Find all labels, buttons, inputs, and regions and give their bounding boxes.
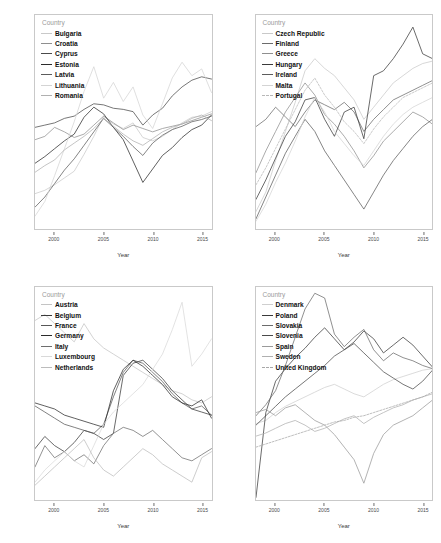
- series-line-denmark: [256, 368, 433, 423]
- x-tick-label: 2000: [269, 237, 280, 242]
- legend-item-austria[interactable]: Austria: [41, 300, 95, 310]
- legend-label: Lithuania: [55, 82, 84, 89]
- chart-panel-4: 12.515.017.520.022.525.0 % Country Denma…: [221, 272, 441, 543]
- plot-area-3: 141618 % Country AustriaBelgiumFranceGer…: [34, 286, 213, 502]
- chart-panel-2: 1719212325 % Country Czech RepublicFinla…: [221, 0, 441, 272]
- legend-swatch-icon: [41, 85, 52, 86]
- legend-item-spain[interactable]: Spain: [262, 341, 327, 351]
- legend-item-italy[interactable]: Italy: [41, 341, 95, 351]
- legend-swatch-icon: [41, 33, 52, 34]
- legend-label: Slovenia: [276, 332, 303, 339]
- legend-item-germany[interactable]: Germany: [41, 331, 95, 341]
- legend-swatch-icon: [41, 367, 52, 368]
- legend-item-czech-republic[interactable]: Czech Republic: [262, 28, 325, 38]
- legend-2[interactable]: Country Czech RepublicFinlandGreeceHunga…: [262, 19, 325, 101]
- legend-label: Austria: [55, 301, 78, 308]
- legend-item-malta[interactable]: Malta: [262, 80, 325, 90]
- legend-item-hungary[interactable]: Hungary: [262, 59, 325, 69]
- legend-label: Cyprus: [55, 50, 78, 57]
- legend-label: Denmark: [276, 301, 304, 308]
- legend-items-1: BulgariaCroatiaCyprusEstoniaLatviaLithua…: [41, 28, 84, 101]
- x-tick-label: 2015: [418, 237, 429, 242]
- legend-item-denmark[interactable]: Denmark: [262, 300, 327, 310]
- x-axis-label-3: Year: [34, 523, 213, 529]
- legend-items-2: Czech RepublicFinlandGreeceHungaryIrelan…: [262, 28, 325, 101]
- legend-label: Estonia: [55, 61, 79, 68]
- legend-item-romania[interactable]: Romania: [41, 90, 84, 100]
- figure-panel-grid: 20253035 % Country BulgariaCroatiaCyprus…: [0, 0, 441, 543]
- legend-label: Spain: [276, 343, 294, 350]
- legend-label: Netherlands: [55, 364, 93, 371]
- legend-item-belgium[interactable]: Belgium: [41, 310, 95, 320]
- x-tick-label: 2005: [98, 508, 109, 513]
- x-tick-label: 2015: [418, 508, 429, 513]
- legend-item-slovenia[interactable]: Slovenia: [262, 331, 327, 341]
- legend-label: Malta: [276, 82, 293, 89]
- x-tick-label: 2010: [368, 508, 379, 513]
- legend-1[interactable]: Country BulgariaCroatiaCyprusEstoniaLatv…: [41, 19, 84, 101]
- legend-title-4: Country: [263, 291, 327, 298]
- legend-swatch-icon: [41, 356, 52, 357]
- legend-item-portugal[interactable]: Portugal: [262, 90, 325, 100]
- x-tick-label: 2000: [48, 237, 59, 242]
- x-tick-label: 2000: [48, 508, 59, 513]
- legend-item-croatia[interactable]: Croatia: [41, 38, 84, 48]
- legend-item-latvia[interactable]: Latvia: [41, 70, 84, 80]
- legend-swatch-icon: [41, 43, 52, 44]
- x-axis-2: 2000200520102015: [255, 232, 434, 244]
- series-line-estonia: [35, 107, 212, 182]
- x-tick-label: 2005: [98, 237, 109, 242]
- chart-panel-3: 141618 % Country AustriaBelgiumFranceGer…: [0, 272, 221, 543]
- legend-item-luxembourg[interactable]: Luxembourg: [41, 351, 95, 361]
- legend-item-lithuania[interactable]: Lithuania: [41, 80, 84, 90]
- legend-swatch-icon: [262, 335, 273, 336]
- legend-4[interactable]: Country DenmarkPolandSlovakiaSloveniaSpa…: [262, 291, 327, 373]
- legend-item-ireland[interactable]: Ireland: [262, 70, 325, 80]
- legend-label: Sweden: [276, 353, 301, 360]
- legend-item-finland[interactable]: Finland: [262, 38, 325, 48]
- legend-label: Hungary: [276, 61, 303, 68]
- series-line-belgium: [35, 360, 212, 451]
- x-tick-label: 2000: [269, 508, 280, 513]
- legend-3[interactable]: Country AustriaBelgiumFranceGermanyItaly…: [41, 291, 95, 373]
- legend-swatch-icon: [262, 74, 273, 75]
- x-tick-label: 2005: [318, 237, 329, 242]
- x-tick-label: 2010: [147, 237, 158, 242]
- legend-label: France: [55, 322, 77, 329]
- legend-item-bulgaria[interactable]: Bulgaria: [41, 28, 84, 38]
- series-line-united-kingdom: [256, 392, 433, 447]
- legend-label: Ireland: [276, 71, 298, 78]
- legend-item-poland[interactable]: Poland: [262, 310, 327, 320]
- legend-swatch-icon: [41, 304, 52, 305]
- legend-swatch-icon: [262, 325, 273, 326]
- legend-swatch-icon: [262, 95, 273, 96]
- legend-swatch-icon: [41, 53, 52, 54]
- legend-item-france[interactable]: France: [41, 320, 95, 330]
- x-tick-label: 2010: [147, 508, 158, 513]
- legend-label: Poland: [276, 312, 298, 319]
- legend-swatch-icon: [262, 53, 273, 54]
- legend-swatch-icon: [262, 85, 273, 86]
- legend-item-united-kingdom[interactable]: United Kingdom: [262, 362, 327, 372]
- legend-item-estonia[interactable]: Estonia: [41, 59, 84, 69]
- legend-item-slovakia[interactable]: Slovakia: [262, 320, 327, 330]
- plot-area-2: 1719212325 % Country Czech RepublicFinla…: [255, 14, 434, 230]
- legend-swatch-icon: [262, 43, 273, 44]
- legend-item-cyprus[interactable]: Cyprus: [41, 49, 84, 59]
- legend-title-3: Country: [42, 291, 95, 298]
- legend-item-sweden[interactable]: Sweden: [262, 351, 327, 361]
- legend-title-2: Country: [263, 19, 325, 26]
- legend-item-netherlands[interactable]: Netherlands: [41, 362, 95, 372]
- legend-label: Germany: [55, 332, 84, 339]
- legend-items-4: DenmarkPolandSlovakiaSloveniaSpainSweden…: [262, 300, 327, 373]
- legend-swatch-icon: [262, 64, 273, 65]
- legend-swatch-icon: [41, 346, 52, 347]
- legend-item-greece[interactable]: Greece: [262, 49, 325, 59]
- legend-swatch-icon: [41, 325, 52, 326]
- legend-swatch-icon: [41, 74, 52, 75]
- x-axis-label-2: Year: [255, 252, 434, 258]
- x-tick-label: 2015: [197, 508, 208, 513]
- series-line-spain: [256, 400, 433, 483]
- legend-label: Finland: [276, 40, 299, 47]
- x-tick-label: 2010: [368, 237, 379, 242]
